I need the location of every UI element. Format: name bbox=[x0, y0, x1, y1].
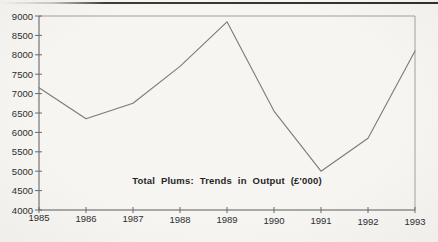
y-tick-label: 7000 bbox=[12, 88, 33, 99]
y-tick-label: 6500 bbox=[12, 108, 33, 119]
x-tick-label: 1989 bbox=[216, 214, 237, 225]
chart-title: Total Plums: Trends in Output (£'000) bbox=[39, 175, 415, 186]
x-tick-label: 1988 bbox=[169, 214, 190, 225]
x-tick-label: 1991 bbox=[310, 215, 331, 226]
y-tick-label: 7500 bbox=[12, 69, 33, 80]
scanned-chart-page: 4000450050005500600065007000750080008500… bbox=[0, 0, 438, 242]
y-tick-label: 8000 bbox=[12, 49, 33, 60]
y-tick-label: 5500 bbox=[12, 146, 33, 157]
y-tick-label: 9000 bbox=[12, 11, 33, 22]
x-tick-label: 1987 bbox=[122, 213, 143, 224]
data-series-line bbox=[39, 22, 415, 171]
y-tick-label: 8500 bbox=[12, 30, 33, 41]
x-tick-label: 1985 bbox=[28, 212, 49, 223]
chart-svg: 4000450050005500600065007000750080008500… bbox=[0, 0, 438, 242]
y-tick-label: 5000 bbox=[12, 166, 33, 177]
x-tick-label: 1993 bbox=[404, 216, 425, 227]
x-tick-label: 1986 bbox=[75, 213, 96, 224]
y-tick-label: 4500 bbox=[12, 185, 33, 196]
total-plums-line-chart: 4000450050005500600065007000750080008500… bbox=[0, 0, 438, 242]
x-tick-label: 1992 bbox=[357, 216, 378, 227]
x-tick-label: 1990 bbox=[263, 215, 284, 226]
y-tick-label: 6000 bbox=[12, 127, 33, 138]
